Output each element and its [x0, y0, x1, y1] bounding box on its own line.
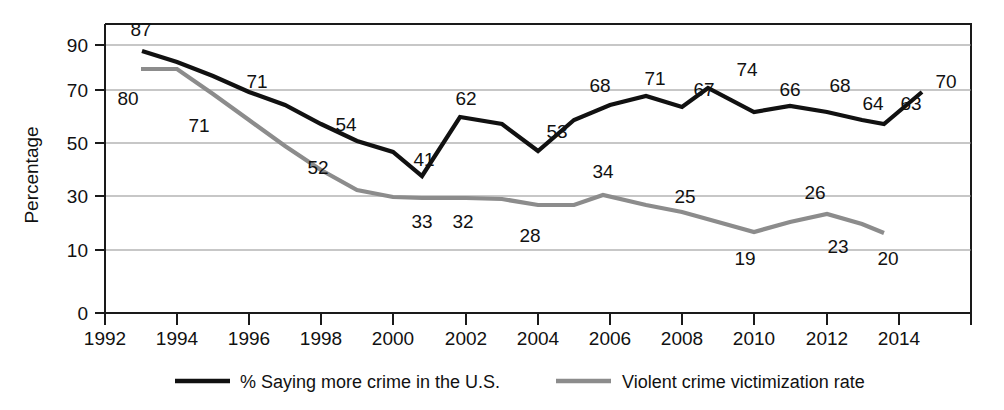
y-tick-label-10: 10: [67, 240, 88, 261]
x-tick-label-1998: 1998: [300, 328, 342, 349]
data-label-primary-1999: 54: [335, 114, 357, 135]
data-labels-secondary: 80 71 52 33 32 28 34 25 19 26 23 20: [117, 88, 898, 269]
x-axis: 1992 1994 1996 1998 2000 2002 2004 2006 …: [84, 313, 971, 349]
legend-label-secondary: Violent crime victimization rate: [622, 372, 865, 392]
x-tick-label-2008: 2008: [661, 328, 703, 349]
data-label-secondary-2002: 32: [452, 211, 473, 232]
data-label-primary-2015: 70: [935, 71, 956, 92]
x-tick-label-1992: 1992: [84, 328, 126, 349]
data-label-primary-2009: 74: [736, 59, 758, 80]
series-line-primary: [142, 51, 922, 176]
data-label-secondary-1998: 52: [307, 157, 328, 178]
data-label-primary-1993: 87: [130, 19, 151, 40]
x-tick-label-2014: 2014: [878, 328, 921, 349]
data-label-primary-2014: 63: [900, 93, 921, 114]
y-tick-label-0: 0: [77, 303, 88, 324]
data-label-primary-2004: 53: [546, 121, 567, 142]
x-tick-label-1994: 1994: [156, 328, 199, 349]
data-label-primary-2006: 68: [589, 75, 610, 96]
y-tick-label-90: 90: [67, 35, 88, 56]
y-axis: 90 70 50 30 10 0 Percentage: [21, 24, 105, 324]
y-tick-label-30: 30: [67, 186, 88, 207]
chart-legend: % Saying more crime in the U.S. Violent …: [175, 372, 865, 392]
data-label-secondary-2008: 25: [674, 186, 695, 207]
chart-canvas: 90 70 50 30 10 0 Percentage 1992 199: [0, 0, 1004, 410]
x-tick-label-2000: 2000: [372, 328, 414, 349]
data-label-secondary-2010: 19: [734, 248, 755, 269]
y-axis-title: Percentage: [21, 126, 42, 223]
x-tick-label-2006: 2006: [589, 328, 631, 349]
data-label-primary-2002: 62: [455, 88, 476, 109]
series-saying-more-crime: [142, 51, 922, 176]
data-label-primary-2008: 67: [693, 79, 714, 100]
data-label-secondary-2014: 20: [877, 248, 898, 269]
y-tick-label-50: 50: [67, 133, 88, 154]
data-label-primary-1997: 71: [246, 71, 267, 92]
data-label-secondary-1993: 80: [117, 88, 138, 109]
data-label-primary-2013: 64: [862, 93, 884, 114]
x-tick-label-2004: 2004: [517, 328, 560, 349]
x-tick-label-2012: 2012: [806, 328, 848, 349]
data-label-secondary-1995: 71: [188, 115, 209, 136]
data-label-primary-2007: 71: [644, 68, 665, 89]
x-tick-label-2002: 2002: [445, 328, 487, 349]
x-tick-label-1996: 1996: [228, 328, 270, 349]
data-label-secondary-2006: 34: [592, 161, 614, 182]
line-chart-figure: 90 70 50 30 10 0 Percentage 1992 199: [0, 0, 1004, 410]
legend-label-primary: % Saying more crime in the U.S.: [240, 372, 500, 392]
plot-frame: [105, 24, 971, 313]
data-label-primary-2001: 41: [413, 149, 434, 170]
x-tick-label-2010: 2010: [733, 328, 775, 349]
data-label-secondary-2012: 26: [804, 182, 825, 203]
data-label-primary-2011: 68: [829, 75, 850, 96]
data-label-secondary-2001: 33: [411, 211, 432, 232]
data-label-secondary-2013: 23: [827, 236, 848, 257]
data-label-primary-2010: 66: [779, 79, 800, 100]
data-label-secondary-2004: 28: [519, 225, 540, 246]
y-tick-label-70: 70: [67, 80, 88, 101]
